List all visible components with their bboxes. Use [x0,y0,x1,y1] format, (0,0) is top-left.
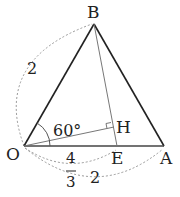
label-a: A [159,148,173,168]
length-ob: 2 [27,59,37,78]
angle-label: 60° [53,121,81,140]
segment-be [94,24,117,146]
label-h: H [116,117,131,137]
label-o: O [6,144,20,164]
length-oa: 2 [90,168,100,187]
length-oe-denominator: 3 [66,173,76,191]
triangle-diagram: B O A E H 60° 2 2 4 3 [0,0,180,197]
label-e: E [111,148,123,168]
label-b: B [87,2,100,22]
length-oe-numerator: 4 [66,149,76,167]
